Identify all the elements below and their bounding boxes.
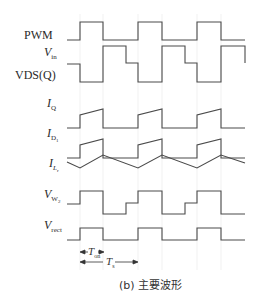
- label-t-s: Ts: [106, 255, 114, 269]
- waveform-vrect: [67, 228, 245, 240]
- waveform-ilr: [67, 155, 245, 168]
- waveform-vds: [67, 46, 245, 82]
- label-t-on: Ton: [88, 245, 100, 259]
- waveform-diagram: [0, 0, 261, 299]
- waveform-iq: [67, 109, 245, 128]
- figure-caption: (b) 主要波形: [119, 276, 182, 292]
- waveform-id1: [67, 139, 245, 158]
- waveform-vw2: [67, 191, 245, 214]
- waveform-pwm: [67, 22, 245, 40]
